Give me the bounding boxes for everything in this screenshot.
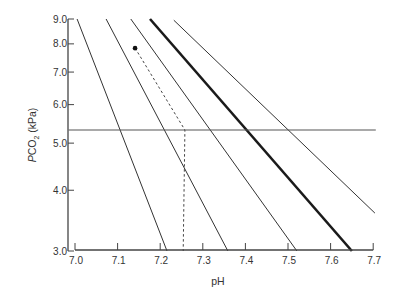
plot-lines xyxy=(69,19,376,251)
start-point-marker xyxy=(133,46,138,51)
y-axis-title: PCO2 (kPa) xyxy=(26,108,40,163)
y-tick-label: 6.0 xyxy=(53,99,67,110)
y-tick-label: 3.0 xyxy=(53,246,67,257)
series-isopleth-5 xyxy=(174,20,375,213)
x-axis-title: pH xyxy=(211,275,224,287)
y-tick-label: 8.0 xyxy=(53,38,67,49)
series-isopleth-2 xyxy=(106,19,228,251)
series-isopleth-normal xyxy=(150,19,352,251)
x-tick-label: 7.2 xyxy=(154,255,168,266)
y-tick-label: 9.0 xyxy=(53,14,67,25)
x-tick-label: 7.5 xyxy=(282,255,296,266)
x-tick-label: 7.1 xyxy=(112,255,126,266)
x-tick-label: 7.0 xyxy=(69,255,83,266)
series-isopleth-1 xyxy=(77,19,167,251)
series-patient-path xyxy=(135,48,185,251)
x-tick-label: 7.4 xyxy=(239,255,253,266)
x-tick-label: 7.6 xyxy=(325,255,339,266)
chart: 3.04.05.06.07.08.09.0 7.07.17.27.37.47.5… xyxy=(0,0,393,299)
y-tick-label: 7.0 xyxy=(53,67,67,78)
y-axis: 3.04.05.06.07.08.09.0 xyxy=(53,14,74,257)
y-tick-label: 5.0 xyxy=(53,138,67,149)
series-isopleth-3 xyxy=(131,19,297,251)
y-tick-label: 4.0 xyxy=(53,185,67,196)
x-tick-label: 7.3 xyxy=(197,255,211,266)
x-tick-label: 7.7 xyxy=(367,255,381,266)
